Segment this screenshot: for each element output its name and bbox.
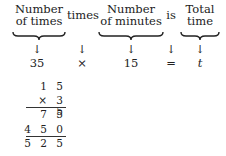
partial-product-2: 4 5 0 — [24, 124, 66, 135]
term-line1: times — [67, 9, 97, 21]
value-15: 15 — [120, 57, 142, 69]
down-arrow-icon: ↓ — [75, 44, 89, 55]
down-arrow-icon: ↓ — [30, 44, 44, 55]
value-35: 35 — [26, 57, 48, 69]
partial-product-1: 7 5 — [24, 109, 66, 120]
final-product: 5 2 5 — [24, 138, 66, 149]
operator-times: × — [75, 57, 89, 69]
term-is: is — [164, 9, 178, 21]
operator-equals: = — [164, 57, 178, 69]
term-times: times — [67, 9, 97, 21]
term-line2: of times — [14, 15, 64, 27]
term-line1: is — [164, 9, 178, 21]
down-arrow-icon: ↓ — [124, 44, 138, 55]
term-number-of-times: Number of times — [14, 3, 64, 27]
down-arrow-icon: ↓ — [164, 44, 178, 55]
term-line2: of minutes — [100, 15, 162, 27]
term-number-of-minutes: Number of minutes — [100, 3, 162, 27]
term-line2: time — [180, 15, 220, 27]
variable-t: t — [193, 57, 207, 69]
down-arrow-icon: ↓ — [193, 44, 207, 55]
underbrace-icon — [180, 31, 220, 41]
underbrace-icon — [98, 31, 164, 41]
underbrace-icon — [12, 31, 66, 41]
term-total-time: Total time — [180, 3, 220, 27]
multiplicand: 1 5 — [24, 81, 66, 92]
